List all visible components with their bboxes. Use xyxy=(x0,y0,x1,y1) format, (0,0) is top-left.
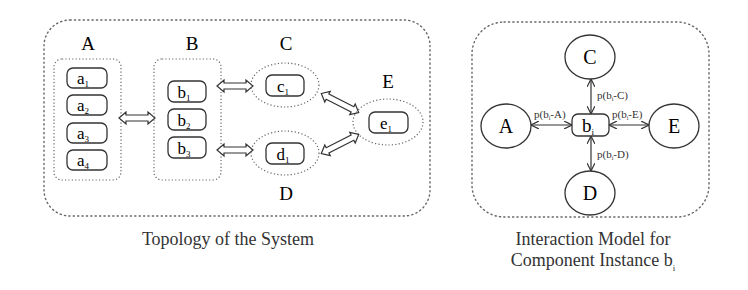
interaction-caption-line1: Interaction Model for xyxy=(488,229,698,250)
center-component-bi: bi xyxy=(572,114,609,137)
double-arrow-a-b xyxy=(119,112,155,124)
node-d: D xyxy=(565,171,615,215)
edge-label-d: p(bi-D) xyxy=(597,148,629,161)
component-a3: a3 xyxy=(67,123,107,144)
topology-caption: Topology of the System xyxy=(118,229,338,250)
group-e-label: E xyxy=(382,71,394,92)
group-c-label: C xyxy=(280,33,293,54)
double-arrow-b-d xyxy=(217,144,253,156)
interaction-caption: Interaction Model for Component Instance… xyxy=(488,229,698,279)
component-b2: b2 xyxy=(168,109,206,131)
svg-text:E: E xyxy=(668,115,680,137)
component-a1: a1 xyxy=(67,68,107,89)
double-arrow-c-e xyxy=(319,88,362,118)
component-a4: a4 xyxy=(67,150,107,171)
component-b1: b1 xyxy=(168,81,206,103)
edge-label-a: p(bi-A) xyxy=(534,108,566,121)
double-arrow-b-c xyxy=(217,80,253,92)
interaction-caption-line2: Component Instance bi xyxy=(488,250,698,279)
edge-label-e: p(bi-E) xyxy=(612,108,643,121)
component-b3: b3 xyxy=(168,137,206,159)
node-e: E xyxy=(649,104,699,148)
double-arrow-d-e xyxy=(319,129,362,159)
component-d1: d1 xyxy=(266,143,304,165)
node-c: C xyxy=(565,35,615,79)
component-e1: e1 xyxy=(369,112,408,134)
node-a: A xyxy=(481,104,531,148)
group-a-label: A xyxy=(81,33,95,54)
svg-text:D: D xyxy=(583,182,597,204)
svg-text:C: C xyxy=(583,46,596,68)
group-b-label: B xyxy=(186,33,199,54)
component-a2: a2 xyxy=(67,95,107,116)
svg-text:A: A xyxy=(499,115,514,137)
edge-label-c: p(bi-C) xyxy=(597,89,628,102)
component-c1: c1 xyxy=(266,75,304,97)
group-d-label: D xyxy=(279,183,293,204)
